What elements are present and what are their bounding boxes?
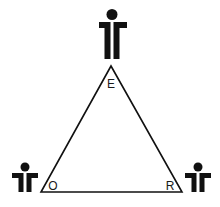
vertex-label-top: E (107, 77, 115, 91)
person-icon-right (185, 163, 211, 193)
triangle-diagram: E O R (0, 0, 220, 207)
vertex-label-bottom-right: R (166, 179, 175, 193)
person-icon-left (12, 163, 38, 193)
person-icon-top (99, 9, 127, 59)
vertex-label-bottom-left: O (48, 179, 57, 193)
